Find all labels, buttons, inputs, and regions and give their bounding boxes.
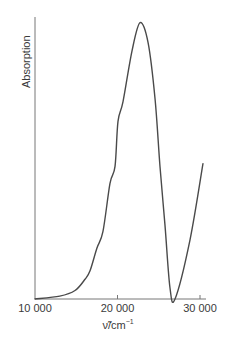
x-axis-label-text: ν̃/cm [102, 319, 125, 331]
x-axis-label-exponent: −1 [126, 318, 134, 325]
chart-canvas [0, 0, 227, 346]
x-tick-label: 30 000 [183, 302, 217, 314]
x-axis-label: ν̃/cm−1 [102, 318, 133, 331]
x-ticks [118, 295, 201, 299]
absorption-curve [35, 22, 203, 302]
y-axis-label: Absorption [20, 35, 32, 88]
x-tick-label: 20 000 [101, 302, 135, 314]
x-tick-label: 10 000 [18, 302, 52, 314]
